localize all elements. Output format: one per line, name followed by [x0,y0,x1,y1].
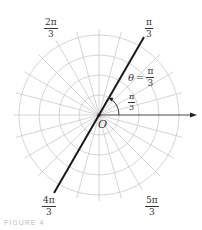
grid-ray [99,115,182,137]
polar-grid [0,0,202,230]
origin-label: O [98,119,107,130]
polar-diagram: 2π 3 π 3 θ = π 3 π 3 O 4π 3 [0,0,202,230]
grid-ray [25,115,99,158]
grid-ray [99,32,121,115]
label-2pi-over-3: 2π 3 [44,18,58,39]
arrow-right-icon [190,113,197,118]
grid-ray [16,115,99,137]
grid-ray [25,72,99,115]
grid-ray [56,41,99,115]
figure-caption: FIGURE 4 [4,219,44,226]
origin-dot [97,113,100,116]
label-arc-pi-over-3: π 3 [128,93,135,112]
grid-ray [99,93,182,115]
label-5pi-over-3: 5π 3 [145,196,159,217]
label-theta-equation: θ = π 3 [128,67,154,88]
grid-ray [16,93,99,115]
label-pi-over-3-top: π 3 [145,18,153,39]
grid-ray [77,32,99,115]
grid-ray [99,115,173,158]
label-4pi-over-3: 4π 3 [42,196,56,217]
polar-axis [99,113,197,118]
grid-ray [77,115,99,198]
